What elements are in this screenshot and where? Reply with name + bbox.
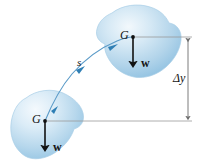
displacement-path-label: s <box>77 57 81 68</box>
rigid-body-upper-shape <box>96 5 181 78</box>
rigid-body-lower <box>11 90 84 159</box>
rigid-body-upper <box>96 5 181 78</box>
weight-vector-label-upper: w <box>141 57 150 69</box>
center-of-gravity-label-lower: G <box>32 113 41 125</box>
physics-diagram-figure: G G w w s Δy <box>0 0 204 167</box>
center-of-gravity-label-upper: G <box>120 29 129 41</box>
rigid-body-lower-shape <box>11 90 84 159</box>
delta-y-label: Δy <box>173 72 185 84</box>
weight-vector-label-lower: w <box>53 141 62 153</box>
